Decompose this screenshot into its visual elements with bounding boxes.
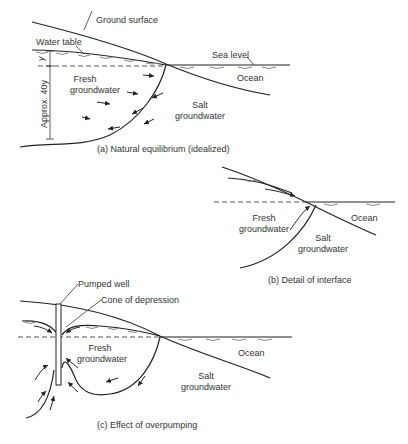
y-label: y <box>36 56 46 62</box>
panel-a: Ground surface Water table Sea level Oce… <box>20 11 290 154</box>
fresh-label-c-1: Fresh <box>88 343 111 353</box>
sea-hatch-b <box>324 204 380 206</box>
fresh-label-1: Fresh <box>73 74 96 84</box>
salt-label-b-2: groundwater <box>298 244 348 254</box>
pumped-well-label: Pumped well <box>78 279 130 289</box>
cone-label: Cone of depression <box>101 295 179 305</box>
caption-a: (a) Natural equilibrium (idealized) <box>97 144 230 154</box>
ocean-label-b: Ocean <box>351 213 378 223</box>
salt-label-c-1: Salt <box>198 371 214 381</box>
salt-label-2: groundwater <box>175 111 225 121</box>
ocean-label-c: Ocean <box>238 348 265 358</box>
flow-arrows-c <box>34 326 145 410</box>
sea-hatch-c <box>178 339 272 341</box>
salt-label-b-1: Salt <box>315 233 331 243</box>
saltwater-intrusion-diagram: Ground surface Water table Sea level Oce… <box>0 0 408 444</box>
water-table-line <box>32 50 166 65</box>
panel-b: Fresh groundwater Ocean Salt groundwater… <box>214 167 395 285</box>
panel-c: Pumped well Cone of depression Fresh gro… <box>18 279 292 430</box>
salt-intrusion-curve <box>26 370 54 418</box>
ground-surface-label: Ground surface <box>96 15 158 25</box>
depth-label: Approx. 40y <box>39 79 49 128</box>
fresh-label-c-2: groundwater <box>77 354 127 364</box>
pumped-well <box>56 304 61 385</box>
fresh-label-b-2: groundwater <box>239 224 289 234</box>
water-table-label: Water table <box>36 37 82 47</box>
fresh-label-2: groundwater <box>70 85 120 95</box>
caption-b: (b) Detail of interface <box>268 275 352 285</box>
sea-hatch <box>180 67 276 69</box>
salt-label-1: Salt <box>192 100 208 110</box>
ground-surface-leader <box>84 11 92 30</box>
salt-flow-arrows <box>108 93 163 129</box>
ocean-label: Ocean <box>237 73 264 83</box>
sea-level-label: Sea level <box>212 50 249 60</box>
salt-label-c-2: groundwater <box>181 382 231 392</box>
salt-interface-arrow <box>290 206 310 230</box>
caption-c: (c) Effect of overpumping <box>97 420 197 430</box>
pumped-well-leader <box>60 284 78 304</box>
fresh-label-b-1: Fresh <box>252 213 275 223</box>
cone-leader <box>66 300 101 327</box>
interface-b <box>240 205 316 268</box>
